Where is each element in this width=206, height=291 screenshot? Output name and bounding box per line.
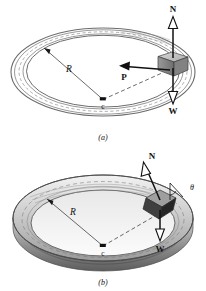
label-c-a: c: [101, 102, 105, 111]
figure-root: N W P R c (a): [0, 0, 206, 291]
label-N-b: N: [149, 151, 156, 161]
label-theta-b: θ: [190, 183, 194, 192]
radius-lines-a: [44, 48, 162, 100]
caption-a: (a): [98, 133, 108, 142]
caption-b: (b): [98, 278, 108, 287]
panel-a: N W P R c (a): [11, 4, 195, 142]
center-marker-b: [100, 244, 106, 247]
panel-b: N W R c θ (b): [13, 151, 194, 287]
label-N-a: N: [170, 4, 177, 14]
figure-canvas: N W P R c (a): [0, 0, 206, 291]
label-W-a: W: [169, 106, 178, 116]
label-P-a: P: [121, 72, 127, 82]
label-R-b: R: [69, 207, 76, 217]
label-R-a: R: [65, 64, 72, 74]
label-W-b: W: [156, 244, 165, 254]
center-marker-a: [100, 97, 106, 100]
